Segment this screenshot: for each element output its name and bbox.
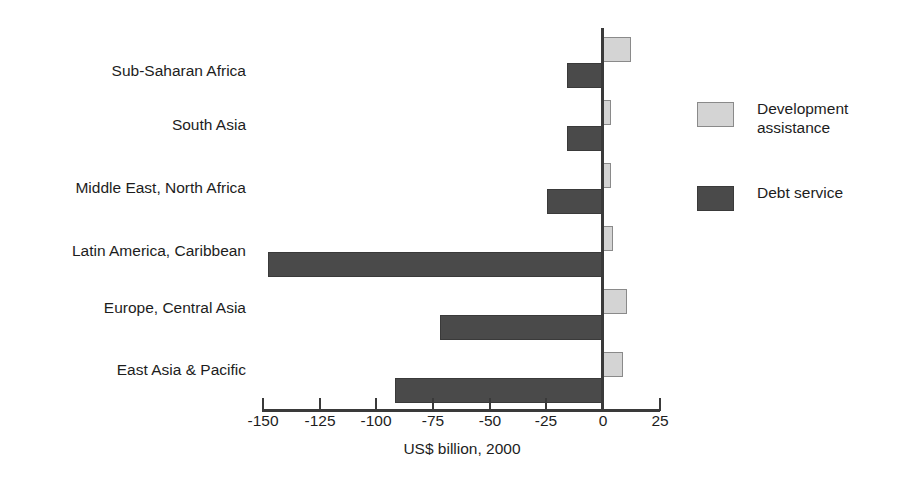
x-tick-mark-minus50 (489, 398, 491, 411)
x-tick-mark-minus125 (319, 398, 321, 411)
x-tick-mark-minus25 (545, 398, 547, 411)
x-axis-title: US$ billion, 2000 (403, 441, 520, 457)
legend-label-debt-service: Debt service (757, 184, 843, 203)
category-label-south-asia: South Asia (172, 117, 246, 133)
bar-debt-latin-america-caribbean (268, 252, 602, 277)
category-label-europe-central-asia: Europe, Central Asia (104, 300, 246, 316)
legend-label-development-assistance: Development assistance (757, 100, 848, 138)
category-axis-labels: Sub-Saharan Africa South Asia Middle Eas… (0, 0, 246, 482)
x-tick-label-minus75: -75 (422, 413, 444, 429)
legend: Development assistance Debt service (697, 100, 907, 257)
bar-aid-europe-central-asia (601, 289, 627, 314)
x-tick-mark-minus100 (375, 398, 377, 411)
legend-item-development-assistance: Development assistance (697, 100, 907, 138)
legend-swatch-development-assistance (697, 102, 734, 127)
bar-debt-sub-saharan-africa (567, 63, 602, 88)
bar-chart: Sub-Saharan Africa South Asia Middle Eas… (0, 0, 910, 482)
category-label-sub-saharan-africa: Sub-Saharan Africa (112, 63, 246, 79)
category-label-latin-america-caribbean: Latin America, Caribbean (72, 243, 246, 259)
x-tick-label-minus150: -150 (247, 413, 278, 429)
bar-aid-east-asia-pacific (601, 352, 623, 377)
zero-axis-line (601, 28, 604, 410)
x-tick-label-minus100: -100 (360, 413, 391, 429)
bar-debt-east-asia-pacific (395, 378, 602, 403)
legend-swatch-debt-service (697, 186, 734, 211)
x-tick-label-25: 25 (651, 413, 668, 429)
category-label-east-asia-pacific: East Asia & Pacific (117, 362, 246, 378)
bar-debt-middle-east-north-africa (547, 189, 602, 214)
x-tick-mark-minus75 (432, 398, 434, 411)
x-tick-mark-0 (602, 398, 604, 411)
category-label-middle-east-north-africa: Middle East, North Africa (75, 180, 246, 196)
bar-aid-sub-saharan-africa (601, 37, 631, 62)
x-tick-mark-25 (659, 398, 661, 411)
legend-item-debt-service: Debt service (697, 184, 907, 211)
bar-debt-south-asia (567, 126, 602, 151)
x-tick-label-minus25: -25 (535, 413, 557, 429)
x-tick-label-minus125: -125 (304, 413, 335, 429)
x-tick-mark-minus150 (262, 398, 264, 411)
x-tick-label-minus50: -50 (479, 413, 501, 429)
bar-debt-europe-central-asia (440, 315, 602, 340)
x-tick-label-0: 0 (599, 413, 608, 429)
